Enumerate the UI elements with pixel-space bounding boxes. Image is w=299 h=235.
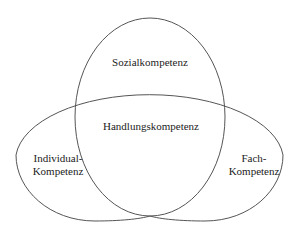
venn-diagram: Sozialkompetenz Handlungskompetenz Indiv… [0, 0, 299, 235]
venn-svg: Sozialkompetenz Handlungskompetenz Indiv… [0, 0, 299, 235]
professional-competence-label-line1: Fach- [241, 152, 266, 164]
individual-competence-label-line2: Kompetenz [33, 165, 84, 177]
social-competence-ellipse [75, 18, 225, 216]
social-competence-label: Sozialkompetenz [112, 56, 188, 68]
individual-competence-label-line1: Individual- [34, 152, 83, 164]
professional-competence-label-line2: Kompetenz [229, 165, 280, 177]
action-competence-label: Handlungskompetenz [103, 120, 199, 132]
